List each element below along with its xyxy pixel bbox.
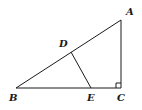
geometry-diagram: A D B E C (0, 0, 142, 110)
label-e: E (86, 92, 95, 103)
label-d: D (58, 38, 68, 49)
label-a: A (125, 6, 134, 17)
right-angle-marker-icon (116, 83, 121, 88)
label-c: C (117, 92, 125, 103)
triangle-abc (16, 20, 121, 88)
label-b: B (8, 92, 17, 103)
segment-de (71, 52, 91, 88)
segment-ab (16, 20, 121, 88)
